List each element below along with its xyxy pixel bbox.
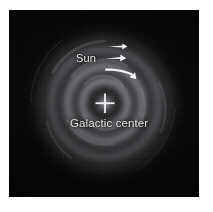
- annotation-overlay: [9, 10, 199, 197]
- galaxy-image-plate: Sun Galactic center: [9, 10, 199, 197]
- sun-velocity-arrow-top: [109, 43, 128, 49]
- galactic-center-label: Galactic center: [70, 117, 148, 129]
- figure-root: Sun Galactic center: [0, 0, 213, 212]
- sun-label: Sun: [76, 52, 96, 64]
- galactic-center-cross-icon: [96, 94, 115, 114]
- ring-filaments: [31, 41, 175, 170]
